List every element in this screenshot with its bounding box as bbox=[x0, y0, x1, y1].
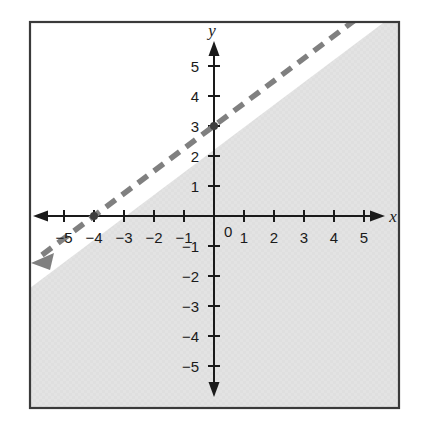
y-tick-label-1: 1 bbox=[191, 178, 199, 195]
x-tick-label--3: −3 bbox=[115, 229, 132, 246]
y-tick-label-2: 2 bbox=[191, 148, 199, 165]
y-tick-label-4: 4 bbox=[191, 88, 199, 105]
x-tick-label-1: 1 bbox=[240, 229, 248, 246]
figure-root: −5 −4 −3 −2 −1 1 2 3 4 5 5 4 3 2 1 −1 −2… bbox=[0, 0, 427, 427]
y-tick-label--2: −2 bbox=[182, 268, 199, 285]
y-tick-label--1: −1 bbox=[182, 238, 199, 255]
x-tick-label-4: 4 bbox=[330, 229, 338, 246]
x-tick-label-3: 3 bbox=[300, 229, 308, 246]
y-tick-label-5: 5 bbox=[191, 58, 199, 75]
y-intercept-point bbox=[210, 122, 218, 130]
y-tick-label--5: −5 bbox=[182, 358, 199, 375]
x-tick-label-5: 5 bbox=[360, 229, 368, 246]
x-tick-label-2: 2 bbox=[270, 229, 278, 246]
x-tick-label--2: −2 bbox=[145, 229, 162, 246]
y-tick-label--4: −4 bbox=[182, 328, 199, 345]
y-tick-label--3: −3 bbox=[182, 298, 199, 315]
x-tick-label--5: −5 bbox=[55, 229, 72, 246]
origin-label: 0 bbox=[224, 223, 232, 240]
x-intercept-point bbox=[90, 212, 98, 220]
x-tick-label--4: −4 bbox=[85, 229, 102, 246]
y-axis-label: y bbox=[206, 21, 216, 40]
line-upper-right-arrow-icon bbox=[343, 5, 366, 22]
x-axis-label: x bbox=[388, 207, 397, 226]
y-tick-label-3: 3 bbox=[191, 118, 199, 135]
coordinate-plane-graph: −5 −4 −3 −2 −1 1 2 3 4 5 5 4 3 2 1 −1 −2… bbox=[0, 0, 427, 427]
